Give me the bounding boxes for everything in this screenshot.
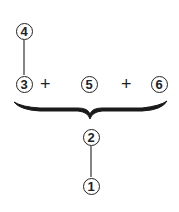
plus-operator-1: + — [40, 75, 51, 93]
node-5: 5 — [81, 76, 98, 93]
underbrace — [14, 101, 167, 119]
node-1-label: 1 — [87, 180, 94, 193]
node-3-label: 3 — [20, 78, 27, 91]
node-4-label: 4 — [20, 25, 27, 38]
node-3: 3 — [16, 76, 33, 93]
node-6: 6 — [151, 76, 168, 93]
expression-tree-diagram: 4 3 + 5 + 6 2 1 — [0, 0, 179, 212]
node-6-label: 6 — [155, 78, 162, 91]
node-2: 2 — [83, 129, 100, 146]
node-1: 1 — [83, 178, 100, 195]
node-2-label: 2 — [87, 131, 94, 144]
node-4: 4 — [16, 23, 33, 40]
node-5-label: 5 — [85, 78, 92, 91]
plus-operator-2: + — [121, 75, 132, 93]
